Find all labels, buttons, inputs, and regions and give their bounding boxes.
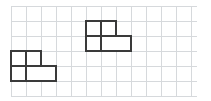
right-shape [86, 21, 131, 51]
shape-cell [101, 21, 116, 36]
shape-cell [116, 36, 131, 51]
shape-cell [26, 51, 41, 66]
shape-cell [101, 36, 116, 51]
shape-cell [26, 66, 41, 81]
shape-cell [41, 66, 56, 81]
shape-cell [86, 36, 101, 51]
shapes-canvas [0, 0, 211, 101]
left-shape [11, 51, 56, 81]
shapes-layer [0, 0, 211, 101]
grid-shapes-figure: ) [0, 0, 211, 101]
shape-cell [86, 21, 101, 36]
shape-cell [11, 66, 26, 81]
shape-cell [11, 51, 26, 66]
